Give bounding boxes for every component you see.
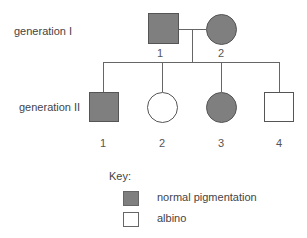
key-swatch-normal-pigmentation	[123, 191, 139, 206]
gen2-number-2: 2	[152, 137, 172, 149]
generation-ii-label: generation II	[19, 101, 80, 113]
descent-line	[192, 29, 193, 62]
gen2-number-1: 1	[93, 137, 113, 149]
child-3-drop-line	[221, 62, 222, 92]
key-label-normal-pigmentation: normal pigmentation	[157, 191, 257, 203]
key-title: Key:	[109, 170, 131, 182]
child-2-drop-line	[162, 62, 163, 92]
gen2-number-4: 4	[269, 137, 289, 149]
sibship-line	[103, 62, 280, 63]
generation-i-label: generation I	[14, 25, 72, 37]
child-4-drop-line	[279, 62, 280, 92]
key-label-albino: albino	[157, 212, 186, 224]
key-swatch-albino	[123, 212, 139, 227]
gen1-individual-1-male-affected	[148, 13, 179, 44]
gen1-number-2: 2	[211, 47, 231, 59]
child-1-drop-line	[103, 62, 104, 92]
gen1-number-1: 1	[150, 47, 170, 59]
gen2-individual-4-male-albino	[264, 92, 294, 122]
gen2-individual-3-female-affected	[206, 92, 237, 123]
gen2-individual-1-male-affected	[89, 92, 119, 122]
gen1-individual-2-female-affected	[206, 14, 237, 45]
gen2-number-3: 3	[211, 137, 231, 149]
gen2-individual-2-female-albino	[147, 92, 178, 123]
